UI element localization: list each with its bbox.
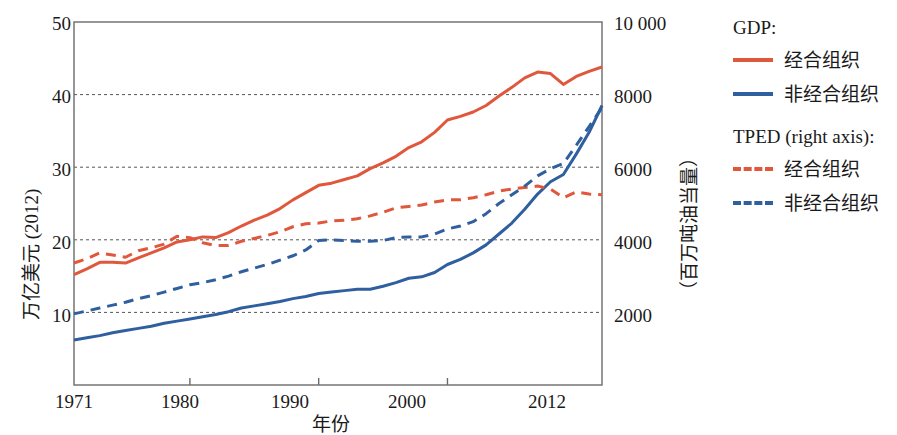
y-axis-tick-50: 50	[11, 14, 71, 33]
y2-axis-tick-6000: 6000	[614, 160, 652, 179]
legend-group-title-tped: TPED (right axis):	[733, 127, 897, 146]
legend-item-gdp-non-oecd[interactable]: 非经合组织	[733, 83, 897, 105]
y-axis-tick-40: 40	[11, 87, 71, 106]
chart-legend: GDP: 经合组织 非经合组织 TPED (right axis): 经合组织 …	[733, 18, 897, 226]
legend-item-tped-non-oecd[interactable]: 非经合组织	[733, 192, 897, 214]
x-axis-tick-1971: 1971	[34, 392, 114, 411]
legend-item-tped-oecd[interactable]: 经合组织	[733, 158, 897, 180]
y-axis-tick-30: 30	[11, 160, 71, 179]
legend-label-tped-non-oecd: 非经合组织	[784, 194, 879, 213]
series-line-1	[74, 105, 602, 340]
x-axis-tick-2000: 2000	[367, 392, 447, 411]
legend-label-tped-oecd: 经合组织	[784, 160, 860, 179]
legend-label-gdp-oecd: 经合组织	[784, 51, 860, 70]
x-axis-tick-1990: 1990	[250, 392, 330, 411]
y2-axis-tick-8000: 8000	[614, 87, 652, 106]
series-line-0	[74, 67, 602, 275]
x-axis-tick-1980: 1980	[140, 392, 220, 411]
legend-group-title-gdp: GDP:	[733, 18, 897, 37]
x-axis-title: 年份	[312, 415, 350, 434]
y2-axis-tick-2000: 2000	[614, 306, 652, 325]
y2-axis-tick-4000: 4000	[614, 233, 652, 252]
y2-axis-title: （百万吨油当量）	[680, 148, 699, 300]
legend-item-gdp-oecd[interactable]: 经合组织	[733, 49, 897, 71]
y2-axis-tick-10000: 10 000	[614, 14, 666, 33]
legend-label-gdp-non-oecd: 非经合组织	[784, 85, 879, 104]
plot-frame	[74, 22, 602, 385]
y-axis-title: 万亿美元 (2012)	[22, 189, 41, 320]
x-axis-tick-2012: 2012	[507, 392, 587, 411]
